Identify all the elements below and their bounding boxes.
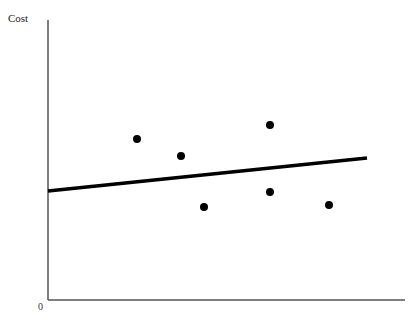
trend-line <box>48 158 367 191</box>
data-point <box>325 201 333 209</box>
scatter-plot <box>0 0 414 328</box>
data-point <box>200 203 208 211</box>
data-point <box>266 121 274 129</box>
data-point <box>266 188 274 196</box>
data-point <box>177 152 185 160</box>
data-point <box>133 135 141 143</box>
